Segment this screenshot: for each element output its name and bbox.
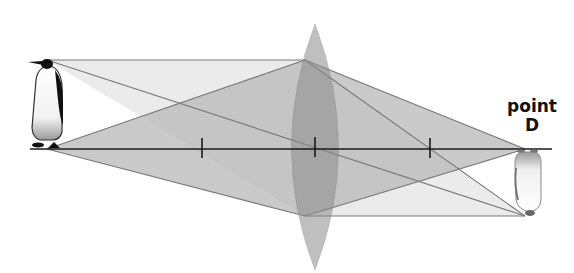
object-penguin-icon <box>28 59 63 148</box>
point-label-letter: D <box>500 116 564 135</box>
lens-ray-diagram <box>0 0 574 273</box>
point-label-word: point <box>500 97 564 116</box>
point-d-label: point D <box>500 97 564 135</box>
image-penguin-icon <box>515 149 541 216</box>
